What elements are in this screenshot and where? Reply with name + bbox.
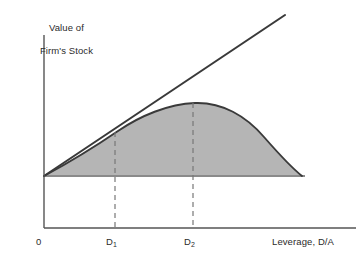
x-tick-d2-base: D	[184, 236, 191, 247]
x-tick-d1: D1	[106, 236, 117, 247]
x-axis-label: Leverage, D/A	[272, 236, 334, 248]
x-tick-d1-base: D	[106, 236, 113, 247]
x-tick-origin: 0	[36, 236, 41, 247]
x-tick-d1-subscript: 1	[113, 241, 117, 248]
shaded-area-under-curve	[44, 103, 302, 176]
x-tick-d2: D2	[184, 236, 195, 247]
y-axis-label-line1: Value of	[49, 22, 84, 33]
y-axis-label: Value of Firm's Stock	[24, 10, 98, 68]
chart-figure: Value of Firm's Stock Leverage, D/A 0 D1…	[0, 0, 361, 260]
y-axis-label-line2: Firm's Stock	[40, 45, 93, 56]
x-tick-d2-subscript: 2	[191, 241, 195, 248]
